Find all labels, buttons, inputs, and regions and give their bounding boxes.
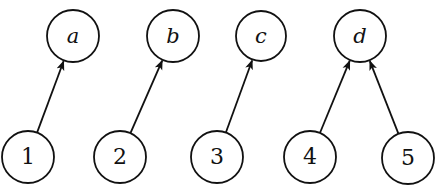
edge-1-to-a xyxy=(37,61,64,132)
node-label: 5 xyxy=(401,145,415,170)
arrow-icon xyxy=(370,61,399,134)
nodes-layer: abcd12345 xyxy=(2,10,434,184)
node-label: 1 xyxy=(21,144,35,169)
node-label: d xyxy=(353,24,366,48)
edge-5-to-d xyxy=(370,61,399,134)
arrow-icon xyxy=(226,60,252,132)
arrow-icon xyxy=(37,61,64,132)
node-2: 2 xyxy=(94,131,146,183)
arrow-icon xyxy=(320,61,350,133)
edge-3-to-c xyxy=(226,60,252,132)
edge-2-to-b xyxy=(130,61,162,133)
node-label: b xyxy=(166,24,179,48)
node-label: 4 xyxy=(303,144,317,169)
node-d: d xyxy=(334,10,386,62)
node-1: 1 xyxy=(2,131,54,183)
node-4: 4 xyxy=(284,131,336,183)
bipartite-diagram: abcd12345 xyxy=(0,0,438,186)
edge-4-to-d xyxy=(320,61,350,133)
edges-layer xyxy=(37,60,398,133)
node-c: c xyxy=(236,11,286,61)
node-label: 2 xyxy=(113,144,127,169)
node-a: a xyxy=(47,10,99,62)
node-b: b xyxy=(147,10,199,62)
node-label: a xyxy=(67,24,80,48)
node-label: 3 xyxy=(210,144,224,169)
node-5: 5 xyxy=(382,132,434,184)
node-3: 3 xyxy=(191,131,243,183)
node-label: c xyxy=(255,24,267,48)
arrow-icon xyxy=(130,61,162,133)
